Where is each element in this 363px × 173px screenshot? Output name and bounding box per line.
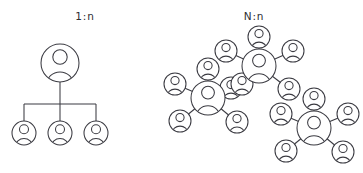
person-avatar-icon xyxy=(337,103,359,126)
relationship-diagram-canvas: 1:n xyxy=(0,0,363,173)
person-avatar-icon xyxy=(215,40,237,63)
relationship-diagram-root: 1:n xyxy=(0,0,363,173)
person-avatar-icon xyxy=(191,81,225,117)
person-avatar-icon xyxy=(169,110,191,133)
person-avatar-icon xyxy=(41,44,79,85)
person-avatar-icon xyxy=(226,111,248,134)
person-avatar-icon xyxy=(332,141,354,164)
panel-label-many-to-many: N:n xyxy=(244,10,265,22)
person-avatar-icon xyxy=(12,121,36,147)
person-avatar-icon xyxy=(197,58,219,81)
person-avatar-icon xyxy=(164,73,186,96)
person-avatar-icon xyxy=(270,103,292,126)
person-avatar-icon xyxy=(297,111,331,147)
panel-many-to-many: N:n xyxy=(164,10,359,164)
person-avatar-icon xyxy=(248,26,270,49)
person-avatar-icon xyxy=(48,121,72,147)
person-avatar-icon xyxy=(282,40,304,63)
person-avatar-icon xyxy=(275,140,297,163)
panel-label-one-to-many: 1:n xyxy=(75,10,95,22)
person-avatar-icon xyxy=(84,121,108,147)
person-avatar-icon xyxy=(303,88,325,111)
one-to-many-links xyxy=(24,82,96,121)
person-avatar-icon xyxy=(278,78,300,101)
panel-one-to-many: 1:n xyxy=(12,10,108,147)
